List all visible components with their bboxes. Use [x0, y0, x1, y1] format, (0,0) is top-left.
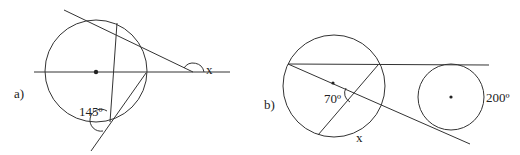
secant-b [288, 64, 470, 144]
angle-arc-x-a [184, 63, 204, 72]
label-a: a) [14, 86, 24, 101]
unknown-label-x-b: x [356, 130, 363, 145]
center-dot-a [94, 70, 98, 74]
angle-label-70: 70º [324, 91, 341, 106]
geometry-figure: a) 145º x b) 70º x 200º [0, 0, 520, 155]
figure-a: a) 145º x [14, 10, 230, 151]
center-dot-b-right [449, 95, 452, 98]
circle-b-left [283, 35, 385, 137]
arc-label-200: 200º [486, 90, 510, 105]
center-dot-b-left [331, 81, 334, 84]
figure-b: b) 70º x 200º [264, 35, 510, 145]
unknown-label-x-a: x [206, 62, 213, 77]
angle-label-145: 145º [79, 104, 103, 119]
label-b: b) [264, 97, 275, 112]
secant-line-a [64, 10, 193, 72]
